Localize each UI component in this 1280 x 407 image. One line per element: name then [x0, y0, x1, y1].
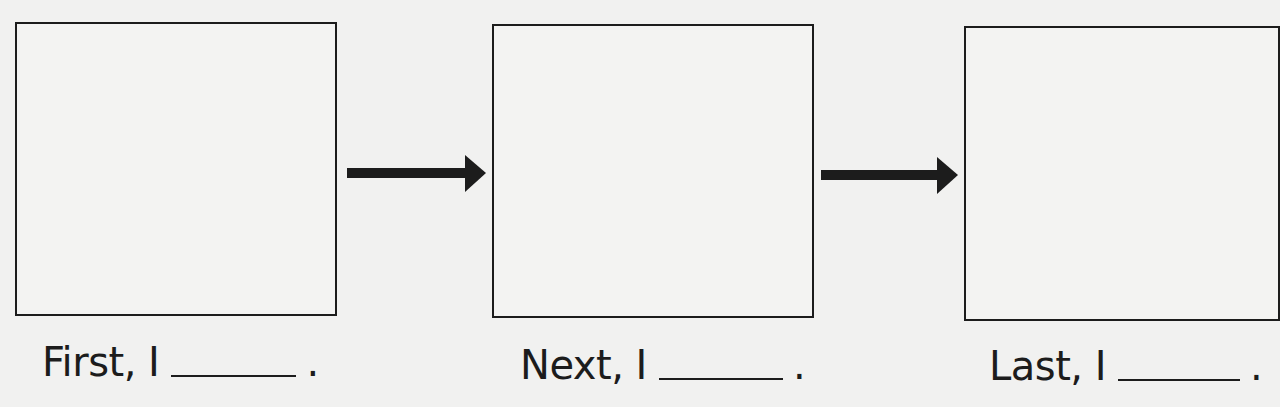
step-2-period: .: [793, 345, 805, 385]
step-1-drawing-box[interactable]: [15, 22, 337, 316]
step-3-caption: Last, I.: [989, 346, 1262, 386]
step-1-caption: First, I.: [42, 342, 319, 382]
step-3-answer-blank[interactable]: [1118, 379, 1240, 381]
right-arrow-icon: [820, 155, 962, 197]
step-2-drawing-box[interactable]: [492, 24, 814, 318]
step-3-period: .: [1250, 346, 1262, 386]
step-3-drawing-box[interactable]: [964, 26, 1280, 321]
step-2-caption: Next, I.: [520, 345, 805, 385]
step-1-label: First, I: [42, 342, 159, 382]
step-1-period: .: [306, 342, 318, 382]
step-1-answer-blank[interactable]: [171, 375, 296, 377]
step-2-label: Next, I: [520, 345, 647, 385]
right-arrow-icon: [346, 153, 488, 195]
step-3-label: Last, I: [989, 346, 1106, 386]
step-2-answer-blank[interactable]: [659, 378, 783, 380]
